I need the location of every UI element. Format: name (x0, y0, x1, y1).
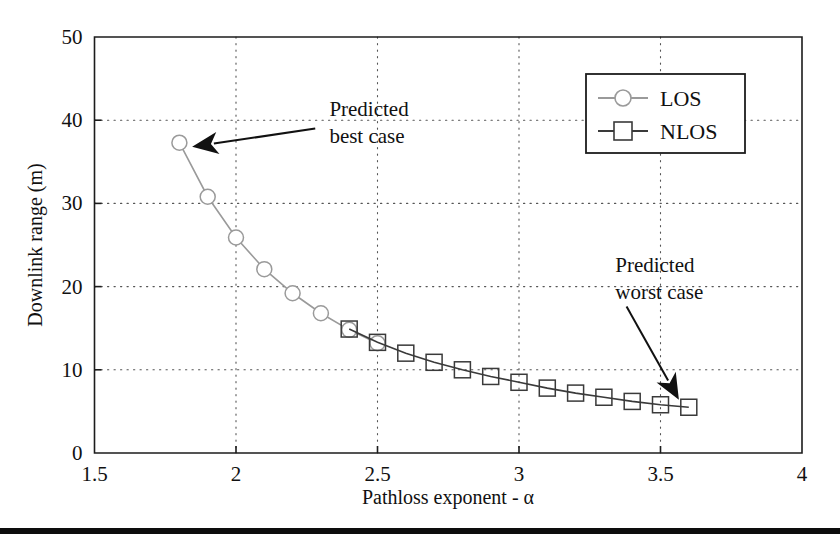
legend-marker-square (614, 122, 632, 140)
data-point-marker-circle (229, 230, 244, 245)
legend-label: LOS (660, 86, 702, 111)
x-tick-label: 1.5 (81, 462, 107, 486)
data-point-marker-circle (257, 262, 272, 277)
legend-marker-circle (615, 90, 631, 106)
y-tick-label: 0 (72, 441, 83, 465)
x-tick-label: 3 (514, 462, 525, 486)
y-tick-label: 50 (62, 25, 83, 49)
chart-figure: 1.522.533.5401020304050 Predictedbest ca… (0, 0, 840, 540)
y-tick-label: 10 (62, 358, 83, 382)
y-tick-label: 20 (62, 275, 83, 299)
y-tick-label: 40 (62, 108, 83, 132)
x-axis-title: Pathloss exponent - α (362, 486, 535, 509)
data-point-marker-circle (313, 306, 328, 321)
x-tick-label: 4 (797, 462, 808, 486)
x-tick-label: 2.5 (364, 462, 390, 486)
legend-label: NLOS (660, 119, 717, 144)
footer-rule (0, 528, 840, 534)
y-axis-title: Downlink range (m) (24, 163, 47, 326)
x-tick-label: 3.5 (647, 462, 673, 486)
chart-legend[interactable]: LOSNLOS (586, 74, 745, 153)
annotation-text-line2: best case (329, 124, 404, 148)
data-point-marker-circle (285, 286, 300, 301)
annotation-text-line1: Predicted (329, 97, 409, 121)
annotation-text-line2: worst case (615, 280, 703, 304)
data-point-marker-circle (172, 135, 187, 150)
downlink-range-vs-pathloss-exponent-chart: 1.522.533.5401020304050 Predictedbest ca… (0, 0, 840, 540)
y-tick-label: 30 (62, 191, 83, 215)
data-point-marker-circle (200, 189, 215, 204)
x-tick-label: 2 (231, 462, 242, 486)
annotation-text-line1: Predicted (615, 253, 695, 277)
